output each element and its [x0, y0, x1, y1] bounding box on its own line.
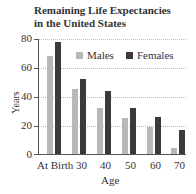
legend-swatch-males — [76, 52, 83, 59]
bar-females-at-birth — [55, 42, 61, 154]
y-tick-label-20: 20 — [2, 120, 32, 131]
gridline-80 — [39, 39, 186, 40]
x-axis-label: Age — [101, 174, 119, 186]
legend-item-males: Males — [76, 49, 114, 61]
gridline-20 — [39, 126, 186, 127]
y-axis-line — [38, 39, 39, 155]
legend-label-males: Males — [87, 49, 114, 61]
chart-title-line-2: in the United States — [34, 17, 171, 30]
x-tick-label-50: 50 — [125, 159, 136, 171]
gridline-60 — [39, 68, 186, 69]
x-tick-label-60: 60 — [150, 159, 161, 171]
legend-label-females: Females — [137, 49, 174, 61]
x-tick-label-30: 30 — [76, 159, 87, 171]
chart-title: Remaining Life Expectancies in the Unite… — [34, 4, 171, 30]
bar-males-40 — [97, 108, 103, 154]
x-tick-label-40: 40 — [100, 159, 111, 171]
bar-males-at-birth — [47, 56, 53, 154]
bar-males-50 — [122, 118, 128, 154]
y-tick-label-60: 60 — [2, 62, 32, 73]
chart-title-line-1: Remaining Life Expectancies — [34, 4, 171, 17]
bar-males-60 — [147, 127, 153, 154]
x-axis-line — [38, 154, 186, 155]
gridline-40 — [39, 97, 186, 98]
x-tick-label-70: 70 — [174, 159, 185, 171]
bar-females-60 — [155, 117, 161, 154]
legend-swatch-females — [126, 52, 133, 59]
x-tick-label-at-birth: At Birth — [37, 159, 73, 171]
y-tick-label-40: 40 — [2, 91, 32, 102]
bar-females-40 — [105, 91, 111, 154]
bar-females-30 — [80, 79, 86, 154]
y-tick-label-80: 80 — [2, 33, 32, 44]
bar-males-30 — [72, 89, 78, 154]
bar-females-70 — [179, 130, 185, 154]
y-tick-label-0: 0 — [2, 149, 32, 160]
bar-females-50 — [130, 108, 136, 154]
legend: Males Females — [76, 49, 186, 61]
legend-item-females: Females — [126, 49, 174, 61]
